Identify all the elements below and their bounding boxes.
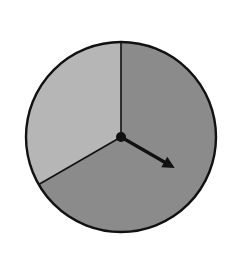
spinner-diagram — [0, 0, 236, 256]
spinner-hub — [116, 132, 126, 142]
